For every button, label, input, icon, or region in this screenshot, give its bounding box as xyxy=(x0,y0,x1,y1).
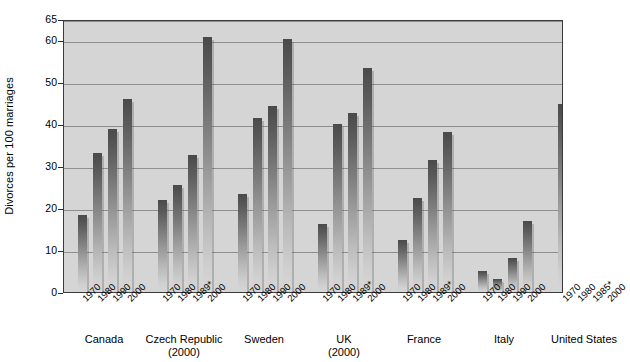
bar xyxy=(283,39,292,292)
group-label-name: Sweden xyxy=(244,333,284,345)
y-tick-label: 20 xyxy=(33,203,57,213)
group-label-name: UK xyxy=(336,333,351,345)
bar xyxy=(78,215,87,292)
plot-area xyxy=(63,20,563,293)
gridline xyxy=(64,210,562,211)
y-tick-label: 0 xyxy=(33,287,57,297)
group-label-name: United States xyxy=(551,333,617,345)
bar xyxy=(398,240,407,292)
y-tick-label: 30 xyxy=(33,161,57,171)
group-label-name: France xyxy=(407,333,441,345)
group-label-name: Italy xyxy=(494,333,514,345)
bar xyxy=(93,153,102,292)
gridline xyxy=(64,84,562,85)
bar xyxy=(558,104,563,292)
bar xyxy=(108,129,117,292)
bar xyxy=(203,37,212,292)
bar xyxy=(318,224,327,292)
y-tick-label: 10 xyxy=(33,245,57,255)
group-label: United States xyxy=(524,333,630,346)
y-tick-label: 60 xyxy=(33,35,57,45)
bar xyxy=(158,200,167,292)
gridline xyxy=(64,126,562,127)
bar xyxy=(428,160,437,292)
bar xyxy=(268,106,277,292)
bar xyxy=(348,113,357,292)
group-label-sub: (2000) xyxy=(284,346,404,359)
bar xyxy=(363,68,372,292)
y-tick-mark xyxy=(58,293,63,294)
gridline xyxy=(64,42,562,43)
gridline xyxy=(64,168,562,169)
bar xyxy=(188,155,197,292)
y-axis-title: Divorces per 100 marriages xyxy=(0,0,18,292)
group-label-sub: (2000) xyxy=(124,346,244,359)
gridline xyxy=(64,21,562,22)
bar xyxy=(333,124,342,292)
group-label-name: Canada xyxy=(85,333,124,345)
y-tick-label: 65 xyxy=(33,14,57,24)
gridline xyxy=(64,252,562,253)
bar xyxy=(443,132,452,292)
y-tick-label: 50 xyxy=(33,77,57,87)
bar xyxy=(253,118,262,292)
bar xyxy=(238,194,247,292)
bar xyxy=(413,198,422,292)
y-tick-label: 40 xyxy=(33,119,57,129)
bar xyxy=(123,99,132,292)
bar xyxy=(173,185,182,292)
